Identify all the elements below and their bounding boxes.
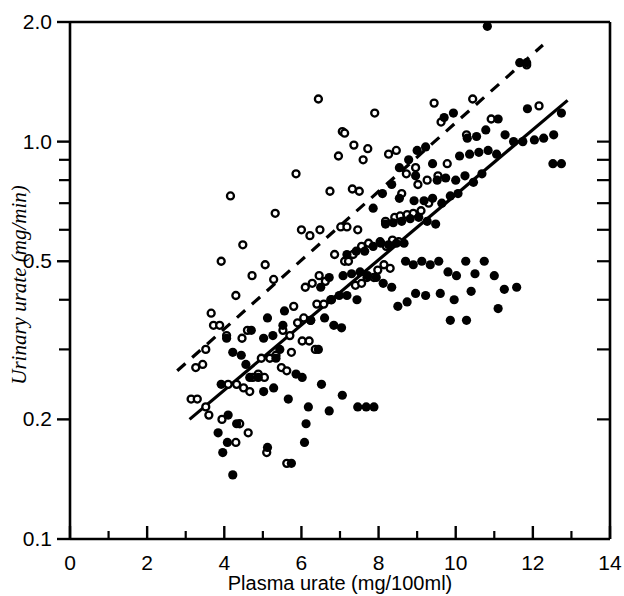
data-point-filled <box>446 316 455 325</box>
data-point-filled <box>397 217 406 226</box>
data-point-open <box>208 310 215 317</box>
data-point-filled <box>232 419 241 428</box>
data-point-open <box>371 110 378 117</box>
data-point-filled <box>245 373 254 382</box>
data-point-filled <box>376 239 385 248</box>
figure-background <box>0 0 624 596</box>
data-point-filled <box>469 178 478 187</box>
data-point-open <box>249 272 256 279</box>
data-point-open <box>272 210 279 217</box>
data-point-filled <box>228 470 237 479</box>
data-point-filled <box>494 114 503 123</box>
data-point-filled <box>426 260 435 269</box>
data-point-open <box>239 335 246 342</box>
y-tick-label: 0.2 <box>23 407 52 430</box>
data-point-filled <box>467 287 476 296</box>
data-point-filled <box>306 316 315 325</box>
data-point-filled <box>433 176 442 185</box>
data-point-open <box>354 226 361 233</box>
data-point-filled <box>530 135 539 144</box>
data-point-filled <box>304 402 313 411</box>
data-point-open <box>444 160 451 167</box>
data-point-filled <box>284 394 293 403</box>
data-point-filled <box>557 159 566 168</box>
data-point-filled <box>320 313 329 322</box>
data-point-open <box>350 142 357 149</box>
data-point-filled <box>223 438 232 447</box>
x-tick-label: 10 <box>444 551 467 574</box>
data-point-filled <box>451 176 460 185</box>
data-point-filled <box>539 134 548 143</box>
data-point-filled <box>428 194 437 203</box>
data-point-filled <box>399 239 408 248</box>
data-point-open <box>356 188 363 195</box>
data-point-filled <box>494 304 503 313</box>
data-point-filled <box>259 334 268 343</box>
data-point-filled <box>450 295 459 304</box>
data-point-open <box>316 226 323 233</box>
data-point-filled <box>436 289 445 298</box>
data-point-filled <box>414 213 423 222</box>
data-point-open <box>326 188 333 195</box>
data-point-filled <box>325 406 334 415</box>
data-point-filled <box>353 402 362 411</box>
data-point-open <box>403 170 410 177</box>
data-point-open <box>335 153 342 160</box>
data-point-open <box>302 284 309 291</box>
data-point-filled <box>378 189 387 198</box>
data-point-filled <box>465 150 474 159</box>
data-point-filled <box>317 380 326 389</box>
x-tick-label: 6 <box>296 551 308 574</box>
data-point-filled <box>395 163 404 172</box>
data-point-filled <box>237 351 246 360</box>
data-point-open <box>360 156 367 163</box>
data-point-filled <box>263 313 272 322</box>
y-axis-title: Urinary urate (mg/min) <box>7 185 31 384</box>
data-point-filled <box>522 58 531 67</box>
data-point-filled <box>441 173 450 182</box>
data-point-filled <box>214 428 223 437</box>
data-point-open <box>202 403 209 410</box>
data-point-filled <box>474 148 483 157</box>
data-point-filled <box>298 373 307 382</box>
data-point-filled <box>241 360 250 369</box>
data-point-open <box>341 130 348 137</box>
data-point-open <box>283 367 290 374</box>
data-point-open <box>192 364 199 371</box>
data-point-filled <box>557 108 566 117</box>
data-point-filled <box>347 269 356 278</box>
data-point-filled <box>421 142 430 151</box>
data-point-open <box>270 276 277 283</box>
data-point-filled <box>369 204 378 213</box>
data-point-filled <box>338 271 347 280</box>
data-point-open <box>262 261 269 268</box>
data-point-open <box>288 349 295 356</box>
data-point-filled <box>500 285 509 294</box>
data-point-open <box>245 429 252 436</box>
data-point-filled <box>428 159 437 168</box>
data-point-filled <box>352 247 361 256</box>
data-point-open <box>309 280 316 287</box>
data-point-filled <box>483 22 492 31</box>
data-point-filled <box>419 196 428 205</box>
data-point-open <box>258 355 265 362</box>
data-point-filled <box>269 383 278 392</box>
data-point-filled <box>472 132 481 141</box>
data-point-filled <box>381 220 390 229</box>
data-point-filled <box>337 323 346 332</box>
data-point-filled <box>404 155 413 164</box>
data-point-filled <box>342 291 351 300</box>
data-point-filled <box>403 297 412 306</box>
data-point-filled <box>268 331 277 340</box>
data-point-filled <box>387 180 396 189</box>
data-point-filled <box>455 151 464 160</box>
data-point-filled <box>363 271 372 280</box>
data-point-filled <box>247 326 256 335</box>
data-point-open <box>320 301 327 308</box>
data-point-filled <box>463 134 472 143</box>
data-point-open <box>387 265 394 272</box>
data-point-open <box>298 226 305 233</box>
data-point-open <box>331 251 338 258</box>
data-point-filled <box>316 283 325 292</box>
data-point-filled <box>369 402 378 411</box>
